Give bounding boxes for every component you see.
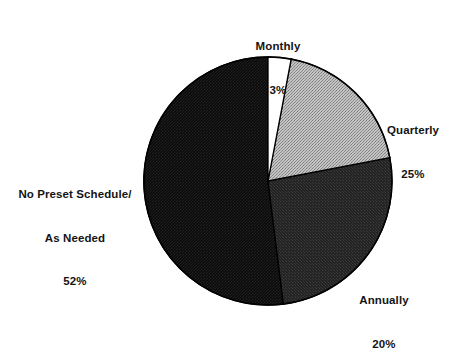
pie-label-no-preset-schedule-value: 52% bbox=[2, 274, 148, 289]
pie-label-annually: Annually 20% bbox=[338, 264, 430, 352]
pie-label-no-preset-schedule-line2: As Needed bbox=[2, 231, 148, 246]
pie-label-quarterly-value: 25% bbox=[366, 167, 460, 182]
pie-label-monthly-name: Monthly bbox=[232, 39, 324, 54]
pie-label-no-preset-schedule-line1: No Preset Schedule/ bbox=[2, 187, 148, 202]
pie-label-annually-name: Annually bbox=[338, 293, 430, 308]
pie-label-no-preset-schedule: No Preset Schedule/ As Needed 52% bbox=[2, 158, 148, 318]
pie-label-monthly: Monthly 3% bbox=[232, 10, 324, 126]
pie-label-annually-value: 20% bbox=[338, 337, 430, 352]
pie-label-monthly-value: 3% bbox=[232, 83, 324, 98]
pie-label-quarterly-name: Quarterly bbox=[366, 123, 460, 138]
pie-label-quarterly: Quarterly 25% bbox=[366, 94, 460, 210]
